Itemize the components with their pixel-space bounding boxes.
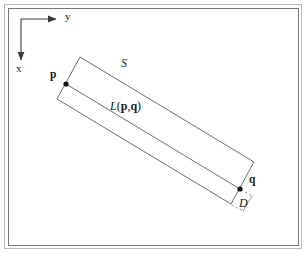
strip-polygon-s [57, 57, 254, 204]
figure-container: y x S p q L(p,q) D [0, 0, 307, 254]
point-label-p: p [50, 69, 56, 81]
dimension-label-d: D [239, 197, 248, 209]
y-axis-label: y [65, 11, 71, 22]
line-label-paren-close: ) [137, 99, 141, 113]
coordinate-axes [21, 19, 56, 60]
line-label-l-p-q: L(p,q) [110, 100, 141, 112]
line-label-l: L [110, 99, 117, 113]
line-l-p-q [66, 84, 240, 189]
point-label-q: q [249, 174, 255, 186]
diagram-canvas [0, 0, 307, 254]
point-marker-q [237, 186, 242, 191]
figure-inner-frame [9, 9, 299, 246]
strip-label-s: S [121, 57, 127, 69]
x-axis-label: x [16, 63, 22, 74]
figure-outer-frame [5, 5, 302, 249]
point-marker-p [63, 81, 68, 86]
